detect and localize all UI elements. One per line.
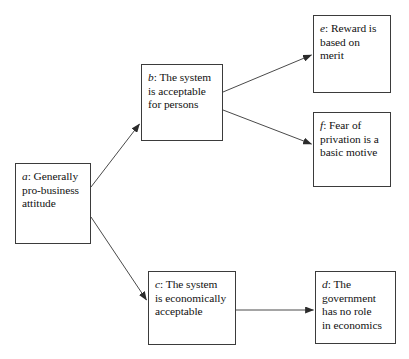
argument-diagram: a: Generally pro-business attitude b: Th…: [0, 0, 409, 359]
edge-a-to-b: [91, 124, 140, 187]
node-c-label: c: The system is economically acceptable: [155, 278, 230, 319]
node-c-text: The system is economically acceptable: [155, 278, 226, 317]
node-f-text: Fear of privation is a basic motive: [320, 119, 379, 158]
node-e-label: e: Reward is based on merit: [320, 22, 385, 63]
node-b[interactable]: b: The system is acceptable for persons: [141, 64, 223, 141]
node-d[interactable]: d: The government has no role in economi…: [315, 271, 396, 344]
edge-b-to-f: [223, 110, 312, 144]
node-c[interactable]: c: The system is economically acceptable: [148, 271, 236, 345]
node-a[interactable]: a: Generally pro-business attitude: [15, 163, 91, 244]
node-f[interactable]: f: Fear of privation is a basic motive: [313, 112, 391, 187]
edge-b-to-e: [223, 55, 312, 92]
node-a-label: a: Generally pro-business attitude: [22, 170, 85, 211]
node-b-label: b: The system is acceptable for persons: [148, 71, 217, 112]
node-d-label: d: The government has no role in economi…: [322, 278, 390, 332]
node-e[interactable]: e: Reward is based on merit: [313, 15, 391, 93]
edge-a-to-c: [91, 217, 147, 300]
node-f-label: f: Fear of privation is a basic motive: [320, 119, 385, 160]
